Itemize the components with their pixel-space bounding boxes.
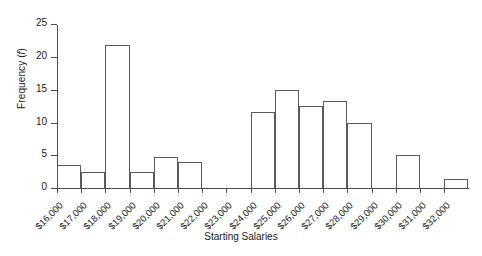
x-tick — [81, 188, 82, 193]
x-tick — [226, 188, 227, 193]
x-tick — [57, 188, 58, 193]
x-tick — [444, 188, 445, 193]
y-axis-title: Frequency (f) — [16, 24, 27, 134]
y-tick-label: 15 — [36, 83, 47, 94]
y-axis-title-paren: (f) — [16, 48, 27, 58]
histogram-bar — [347, 123, 371, 188]
histogram-bar — [323, 101, 347, 188]
x-tick — [347, 188, 348, 193]
x-tick — [323, 188, 324, 193]
y-tick-label: 10 — [36, 116, 47, 127]
x-tick — [372, 188, 373, 193]
x-tick — [420, 188, 421, 193]
x-tick — [154, 188, 155, 193]
histogram-bar — [444, 179, 468, 188]
y-tick: 10 — [51, 123, 57, 124]
y-tick: 25 — [51, 24, 57, 25]
x-tick — [299, 188, 300, 193]
histogram-bar — [396, 155, 420, 188]
x-tick — [178, 188, 179, 193]
x-axis-line — [57, 188, 469, 189]
x-tick — [130, 188, 131, 193]
x-tick — [396, 188, 397, 193]
histogram-bar — [130, 172, 154, 188]
x-tick — [202, 188, 203, 193]
y-axis-title-text: Frequency — [16, 61, 27, 109]
histogram-bar — [299, 106, 323, 188]
histogram-bar — [57, 165, 81, 188]
histogram-bar — [251, 112, 275, 188]
y-tick: 20 — [51, 57, 57, 58]
histogram-bar — [81, 172, 105, 188]
y-tick-label: 20 — [36, 50, 47, 61]
y-axis-title-symbol: f — [16, 52, 27, 55]
y-tick-label: 0 — [41, 181, 47, 192]
x-tick — [105, 188, 106, 193]
y-axis-line — [57, 25, 58, 188]
histogram-bar — [178, 162, 202, 188]
x-tick — [275, 188, 276, 193]
histogram-figure: Frequency (f) 0510152025 $16,000$17,000$… — [0, 0, 482, 256]
y-tick: 15 — [51, 90, 57, 91]
plot-area: 0510152025 $16,000$17,000$18,000$19,000$… — [57, 18, 472, 188]
y-tick-label: 5 — [41, 148, 47, 159]
y-tick: 5 — [51, 155, 57, 156]
histogram-bar — [275, 90, 299, 188]
histogram-bar — [154, 157, 178, 188]
x-tick — [251, 188, 252, 193]
x-axis-title: Starting Salaries — [0, 231, 482, 242]
histogram-bar — [105, 45, 129, 188]
y-tick-label: 25 — [36, 17, 47, 28]
